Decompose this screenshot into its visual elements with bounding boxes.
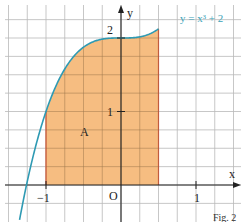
curve-label: y = x³ + 2: [180, 12, 223, 24]
x-tick-label: 1: [194, 191, 200, 205]
y-axis-label: y: [127, 6, 133, 20]
y-axis-arrow-icon: [118, 5, 124, 13]
y-tick-label: 2: [107, 23, 113, 37]
region-label: A: [80, 125, 89, 139]
x-axis-label: x: [229, 167, 235, 181]
x-axis-arrow-icon: [233, 182, 241, 188]
figure-caption: Fig. 2: [213, 212, 236, 222]
x-tick-label: −1: [37, 191, 50, 205]
chart: −1112 x y O A y = x³ + 2 Fig. 2: [0, 0, 241, 222]
origin-label: O: [109, 189, 118, 203]
y-tick-label: 1: [107, 105, 113, 119]
